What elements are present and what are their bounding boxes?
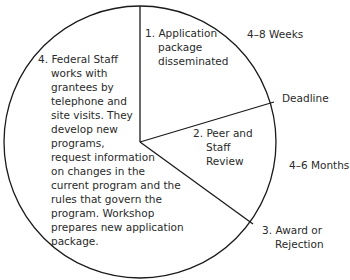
- duration-label-weeks: 4–8 Weeks: [247, 27, 303, 41]
- stage-3-label: 3. Award or Rejection: [262, 223, 324, 251]
- duration-label-months: 4–6 Months: [289, 158, 349, 172]
- stage-number: 1.: [145, 27, 155, 39]
- stage-text: rules that govern the: [38, 192, 184, 206]
- deadline-label: Deadline: [282, 91, 329, 105]
- stage-text: Award or: [275, 224, 322, 236]
- stage-text: request information: [38, 150, 184, 164]
- stage-text: Staff: [193, 140, 253, 154]
- stage-text: current program and the: [38, 178, 184, 192]
- stage-text: on changes in the: [38, 164, 184, 178]
- stage-text: Peer and: [206, 127, 252, 139]
- stage-text: works with: [38, 66, 184, 80]
- stage-text: telephone and: [38, 94, 184, 108]
- stage-number: 3.: [262, 224, 272, 236]
- stage-text: Rejection: [262, 237, 324, 251]
- stage-number: 4.: [38, 53, 48, 65]
- stage-text: program. Workshop: [38, 206, 184, 220]
- stage-2-label: 2. Peer and Staff Review: [193, 126, 253, 168]
- stage-number: 2.: [193, 127, 203, 139]
- stage-text: package.: [38, 234, 184, 248]
- stage-text: Application: [158, 27, 217, 39]
- stage-4-label: 4. Federal Staff works with grantees by …: [38, 52, 184, 248]
- stage-text: develop new: [38, 122, 184, 136]
- stage-text: programs,: [38, 136, 184, 150]
- stage-text: site visits. They: [38, 108, 184, 122]
- stage-text: grantees by: [38, 80, 184, 94]
- stage-text: prepares new application: [38, 220, 184, 234]
- grant-cycle-diagram: 1. Application package disseminated 2. P…: [0, 0, 350, 280]
- stage-text: Review: [193, 154, 253, 168]
- stage-text: Federal Staff: [51, 53, 118, 65]
